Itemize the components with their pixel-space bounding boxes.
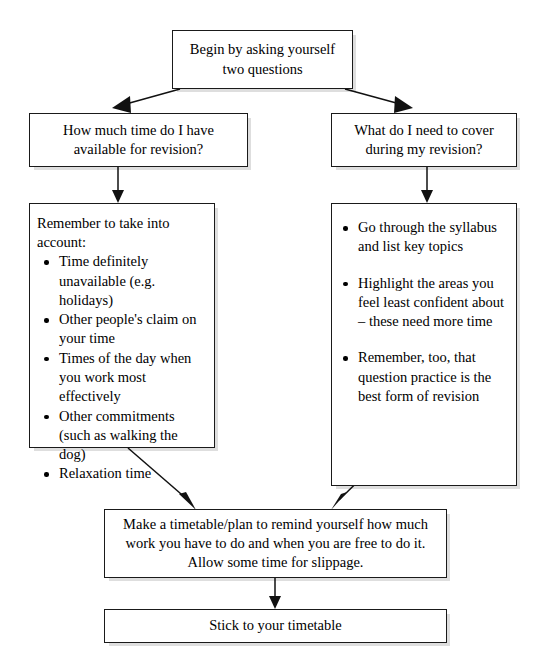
edge-right-question-to-right-list (421, 167, 433, 203)
node-take-into-account-list: Remember to take into account: Time defi… (29, 203, 215, 448)
edge-start-to-right-question (345, 89, 413, 113)
edge-timetable-to-stick (269, 578, 281, 609)
list-left-bullets: Time definitely unavailable (e.g. holida… (37, 252, 207, 483)
edge-left-question-to-left-list (112, 167, 124, 203)
node-timetable-line-2: work you have to do and when you are fre… (120, 534, 432, 553)
list-item: Times of the day when you work most effe… (37, 349, 207, 407)
flowchart-canvas: Begin by asking yourself two questions H… (0, 0, 552, 663)
edge-start-to-left-question (112, 89, 180, 113)
node-question-what-to-cover: What do I need to cover during my revisi… (331, 113, 517, 167)
list-item: Relaxation time (37, 464, 207, 483)
list-item: Highlight the areas you feel least confi… (336, 274, 507, 332)
node-question-time-available: How much time do I have available for re… (29, 113, 248, 167)
node-start: Begin by asking yourself two questions (172, 30, 353, 89)
node-question-right-line-2: during my revision? (360, 140, 489, 159)
node-question-left-line-1: How much time do I have (57, 121, 220, 140)
list-item: Other commitments (such as walking the d… (37, 407, 207, 465)
list-right-bullets: Go through the syllabus and list key top… (336, 218, 507, 406)
list-item: Go through the syllabus and list key top… (336, 218, 507, 257)
node-start-line-2: two questions (216, 60, 308, 79)
node-question-left-line-2: available for revision? (68, 140, 210, 159)
node-question-right-line-1: What do I need to cover (348, 121, 500, 140)
node-stick-text: Stick to your timetable (203, 616, 348, 635)
node-start-line-1: Begin by asking yourself (184, 40, 341, 59)
list-item: Other people's claim on your time (37, 310, 207, 349)
node-make-timetable: Make a timetable/plan to remind yourself… (104, 509, 447, 578)
list-item: Time definitely unavailable (e.g. holida… (37, 252, 207, 310)
node-stick-to-timetable: Stick to your timetable (104, 609, 447, 643)
list-left-intro: Remember to take into account: (37, 214, 207, 252)
list-item: Remember, too, that question practice is… (336, 348, 507, 406)
node-revision-coverage-list: Go through the syllabus and list key top… (331, 203, 517, 486)
node-timetable-line-3: Allow some time for slippage. (182, 553, 370, 572)
node-timetable-line-1: Make a timetable/plan to remind yourself… (117, 515, 434, 534)
